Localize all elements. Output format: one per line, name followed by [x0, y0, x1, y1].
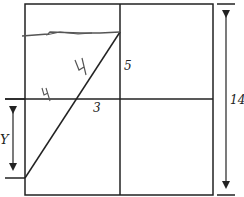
diagonal-segment [25, 32, 120, 178]
geometry-diagram: 5 3 Y 14 [0, 0, 244, 197]
handwritten-four-upper [75, 58, 86, 75]
label-three: 3 [93, 101, 101, 115]
pencil-line [22, 32, 120, 36]
label-fourteen: 14 [230, 93, 244, 107]
label-y: Y [0, 132, 10, 147]
label-five: 5 [124, 59, 132, 73]
